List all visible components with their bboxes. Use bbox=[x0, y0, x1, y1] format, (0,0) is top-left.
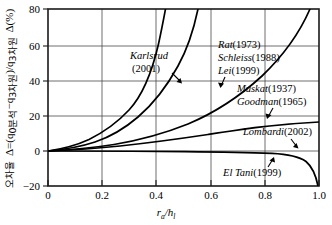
annotation-rat-year: (1973) bbox=[233, 39, 261, 51]
x-tick-label-0: 0 bbox=[45, 189, 51, 201]
annotation-schleiss-line: Schleiss(1988) bbox=[218, 52, 280, 64]
x-tick-label-0.4: 0.4 bbox=[149, 189, 163, 201]
x-tick-label-0.8: 0.8 bbox=[258, 189, 272, 201]
y-title-sub-numer-b: 3차원 bbox=[7, 74, 18, 98]
y-title-korean: 오차율 bbox=[4, 161, 15, 188]
y-tick-label-20: 20 bbox=[29, 110, 41, 122]
y-title-sub-denom: 3차원 bbox=[7, 37, 18, 61]
y-tick-label--20: −20 bbox=[23, 180, 41, 192]
annotation-lombardi-line: Lombardi(2002) bbox=[242, 126, 313, 138]
annotation-eltani-line: El Tani(1999) bbox=[222, 167, 282, 179]
annotation-schleiss-year: (1988) bbox=[252, 52, 280, 64]
annotation-karlsrud-year: (2001) bbox=[132, 63, 160, 75]
y-title-close-q: )/q bbox=[3, 61, 16, 74]
y-title-sub-numer-a: 0분석 bbox=[7, 110, 18, 134]
annotation-lei-year: (1999) bbox=[231, 65, 259, 77]
x-tick-label-0.2: 0.2 bbox=[95, 189, 109, 201]
annotation-goodman-line: Goodman(1965) bbox=[237, 96, 307, 108]
annotation-lombardi-name: Lombardi bbox=[242, 126, 284, 137]
annotation-muskat-name: Muskat bbox=[236, 83, 269, 94]
annotation-lei-name: Lei bbox=[217, 65, 232, 76]
annotation-lei-line: Lei(1999) bbox=[217, 65, 260, 77]
annotation-lombardi-year: (2002) bbox=[284, 126, 312, 138]
y-tick-label-80: 80 bbox=[29, 3, 41, 15]
x-tick-label-0.6: 0.6 bbox=[204, 189, 218, 201]
y-tick-label-40: 40 bbox=[29, 75, 41, 87]
y-title-delta-pct: Δ(%) bbox=[3, 9, 16, 33]
annotation-goodman-year: (1965) bbox=[278, 96, 306, 108]
y-title-delta-open: Δ=(q bbox=[3, 133, 16, 156]
annotation-karlsrud-name: Karlsrud bbox=[129, 50, 169, 61]
error-rate-vs-radius-chart: 0 0.2 0.4 0.6 0.8 1.0 80 60 40 20 0 −20 … bbox=[0, 0, 332, 225]
x-title-slash-h: /h bbox=[164, 206, 174, 218]
x-tick-label-1.0: 1.0 bbox=[312, 189, 326, 201]
annotation-goodman-name: Goodman bbox=[237, 96, 278, 107]
y-tick-label-0: 0 bbox=[35, 145, 41, 157]
annotation-schleiss-name: Schleiss bbox=[218, 52, 252, 63]
annotation-muskat-line: Muskat(1937) bbox=[236, 83, 296, 95]
annotation-rat-line: Rat(1973) bbox=[217, 39, 261, 51]
y-tick-label-60: 60 bbox=[29, 40, 41, 52]
chart-figure: 0 0.2 0.4 0.6 0.8 1.0 80 60 40 20 0 −20 … bbox=[0, 0, 332, 225]
annotation-eltani-name: El Tani bbox=[222, 167, 253, 178]
x-title-sub-l: l bbox=[173, 212, 175, 221]
annotation-muskat-year: (1937) bbox=[268, 83, 296, 95]
y-title-minus-q: −q bbox=[3, 97, 15, 109]
annotation-rat-name: Rat bbox=[217, 39, 234, 50]
annotation-eltani-year: (1999) bbox=[253, 167, 281, 179]
